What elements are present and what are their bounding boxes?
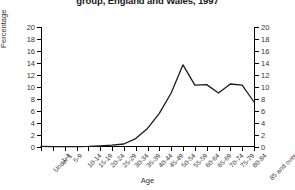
y-tick-label-left: 10 [27, 83, 35, 92]
y-tick-label-left: 16 [27, 47, 35, 56]
y-tick-label-left: 4 [31, 119, 35, 128]
y-tick-right [255, 99, 259, 100]
y-tick-label-left: 6 [31, 107, 35, 116]
x-tick [207, 147, 208, 151]
y-tick-right [255, 123, 259, 124]
data-line-series [41, 27, 255, 147]
y-tick-label-left: 2 [31, 131, 35, 140]
x-tick [41, 147, 42, 151]
x-tick [88, 147, 89, 151]
y-tick-label-right: 16 [261, 47, 269, 56]
y-tick-right [255, 147, 259, 148]
y-tick-label-left: 14 [27, 59, 35, 68]
x-tick [124, 147, 125, 151]
x-axis-title: Age [0, 176, 295, 185]
y-tick-right [255, 51, 259, 52]
x-tick [148, 147, 149, 151]
x-tick [254, 147, 255, 151]
x-tick [112, 147, 113, 151]
y-tick-label-left: 20 [27, 23, 35, 32]
x-tick [159, 147, 160, 151]
y-tick-label-right: 0 [261, 143, 265, 152]
y-tick-label-right: 20 [261, 23, 269, 32]
x-tick [242, 147, 243, 151]
chart-title: group, England and Wales, 1997 [0, 0, 295, 6]
x-tick [230, 147, 231, 151]
series-polyline [41, 65, 254, 147]
x-tick [219, 147, 220, 151]
x-tick [77, 147, 78, 151]
y-tick-label-left: 0 [31, 143, 35, 152]
x-tick-label: 5-9 [71, 152, 83, 164]
x-tick [171, 147, 172, 151]
x-tick [100, 147, 101, 151]
x-tick [195, 147, 196, 151]
y-tick-label-left: 18 [27, 35, 35, 44]
y-tick-right [255, 75, 259, 76]
y-tick-right [255, 111, 259, 112]
y-tick-label-right: 12 [261, 71, 269, 80]
y-tick-right [255, 135, 259, 136]
x-tick [136, 147, 137, 151]
y-tick-right [255, 63, 259, 64]
x-tick [183, 147, 184, 151]
x-tick [65, 147, 66, 151]
y-tick-label-right: 4 [261, 119, 265, 128]
y-tick-label-right: 18 [261, 35, 269, 44]
y-tick-label-right: 8 [261, 95, 265, 104]
plot-area: 02468101214161820 02468101214161820 [41, 27, 255, 147]
y-tick-label-right: 14 [261, 59, 269, 68]
chart-container: group, England and Wales, 1997 Percentag… [0, 0, 295, 190]
y-tick-right [255, 87, 259, 88]
y-tick-label-right: 2 [261, 131, 265, 140]
y-tick-label-left: 12 [27, 71, 35, 80]
y-tick-right [255, 39, 259, 40]
y-tick-right [255, 27, 259, 28]
y-axis-title: Percentage [0, 10, 8, 48]
y-tick-label-left: 8 [31, 95, 35, 104]
y-tick-label-right: 6 [261, 107, 265, 116]
y-tick-label-right: 10 [261, 83, 269, 92]
x-tick [53, 147, 54, 151]
